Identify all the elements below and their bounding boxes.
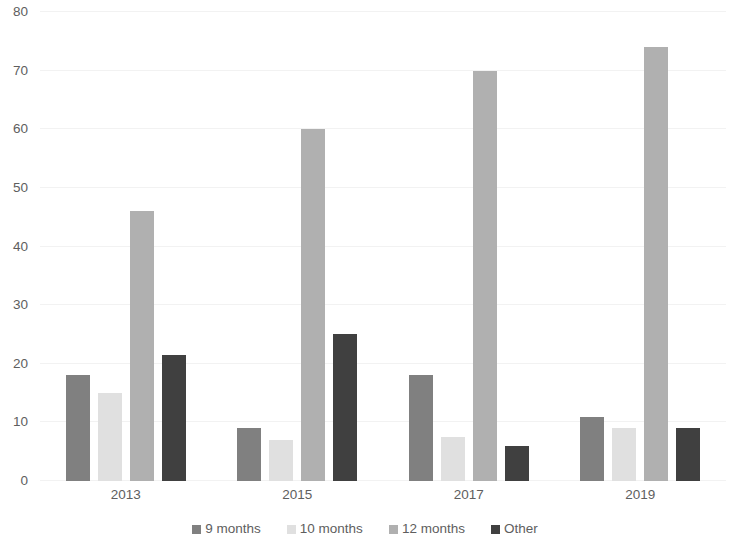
bar-2019-12-months[interactable] xyxy=(644,47,668,481)
bar-2013-10-months[interactable] xyxy=(98,393,122,481)
bar-group-2017 xyxy=(383,12,555,481)
y-tick-label: 20 xyxy=(13,357,28,371)
y-tick-label: 40 xyxy=(13,240,28,254)
bar-2017-10-months[interactable] xyxy=(441,437,465,481)
bar-2017-12-months[interactable] xyxy=(473,71,497,481)
bar-2015-10-months[interactable] xyxy=(269,440,293,481)
bar-2015-12-months[interactable] xyxy=(301,129,325,481)
chart-legend: 9 months10 months12 monthsOther xyxy=(0,519,730,539)
x-tick-label-2013: 2013 xyxy=(111,487,141,503)
legend-label: 9 months xyxy=(205,522,261,536)
y-tick-label: 50 xyxy=(13,181,28,195)
legend-item-12-months[interactable]: 12 months xyxy=(389,522,465,536)
legend-item-10-months[interactable]: 10 months xyxy=(287,522,363,536)
legend-swatch-icon xyxy=(287,525,296,534)
bar-2019-Other[interactable] xyxy=(676,428,700,481)
legend-label: 10 months xyxy=(300,522,363,536)
bar-group-2015 xyxy=(212,12,384,481)
bar-2013-Other[interactable] xyxy=(162,355,186,481)
plot-area xyxy=(40,12,726,481)
x-tick-label-2019: 2019 xyxy=(625,487,655,503)
y-axis: 01020304050607080 xyxy=(0,0,34,542)
bar-2017-Other[interactable] xyxy=(505,446,529,481)
bar-group-2013 xyxy=(40,12,212,481)
legend-item-Other[interactable]: Other xyxy=(491,522,538,536)
bar-2015-9-months[interactable] xyxy=(237,428,261,481)
y-tick-label: 80 xyxy=(13,5,28,19)
x-tick-label-2015: 2015 xyxy=(282,487,312,503)
y-tick-label: 10 xyxy=(13,415,28,429)
legend-swatch-icon xyxy=(491,525,500,534)
bar-group-2019 xyxy=(555,12,727,481)
x-axis: 2013201520172019 xyxy=(40,487,726,509)
bar-2017-9-months[interactable] xyxy=(409,375,433,481)
x-tick-label-2017: 2017 xyxy=(454,487,484,503)
bar-chart: 01020304050607080 2013201520172019 9 mon… xyxy=(0,0,730,542)
bar-2015-Other[interactable] xyxy=(333,334,357,481)
bar-2013-12-months[interactable] xyxy=(130,211,154,481)
legend-label: 12 months xyxy=(402,522,465,536)
legend-label: Other xyxy=(504,522,538,536)
legend-item-9-months[interactable]: 9 months xyxy=(192,522,261,536)
legend-swatch-icon xyxy=(389,525,398,534)
y-tick-label: 70 xyxy=(13,64,28,78)
bar-2019-10-months[interactable] xyxy=(612,428,636,481)
y-tick-label: 60 xyxy=(13,122,28,136)
legend-swatch-icon xyxy=(192,525,201,534)
bar-2019-9-months[interactable] xyxy=(580,417,604,481)
y-tick-label: 30 xyxy=(13,298,28,312)
bar-2013-9-months[interactable] xyxy=(66,375,90,481)
y-tick-label: 0 xyxy=(20,474,28,488)
